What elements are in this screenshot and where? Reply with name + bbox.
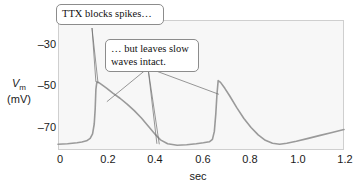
callout-ttx-blocks-spikes: TTX blocks spikes… (56, 4, 164, 25)
callout-slow-waves-intact: … but leaves slow waves intact. (105, 39, 199, 72)
leader-line (107, 68, 148, 102)
leader-line (92, 28, 98, 83)
membrane-potential-trace (58, 81, 344, 146)
